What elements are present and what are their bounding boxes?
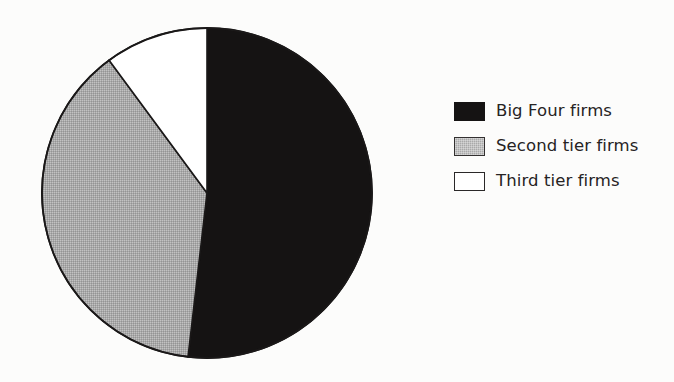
legend-label-second-tier-firms: Second tier firms (496, 138, 638, 155)
legend-label-big-four-firms: Big Four firms (496, 103, 612, 120)
pie-chart-plot-area (38, 24, 376, 362)
legend-swatch-white-icon (454, 172, 485, 191)
legend-item-big-four-firms: Big Four firms (454, 99, 664, 123)
pie-chart-figure: Big Four firms Second tier firms Third t… (0, 0, 674, 382)
pie-svg (38, 24, 376, 362)
legend-swatch-black-icon (454, 102, 485, 121)
legend-item-second-tier-firms: Second tier firms (454, 134, 664, 158)
pie-slice-big-four-firms (188, 28, 372, 358)
legend-label-third-tier-firms: Third tier firms (496, 173, 620, 190)
legend-item-third-tier-firms: Third tier firms (454, 169, 664, 193)
chart-legend: Big Four firms Second tier firms Third t… (454, 99, 664, 193)
legend-swatch-gray-icon (454, 137, 485, 156)
